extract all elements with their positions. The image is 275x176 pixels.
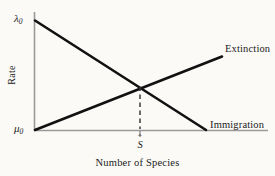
mu-subscript: 0 xyxy=(20,127,24,136)
extinction-line xyxy=(35,57,222,131)
x-axis-tick-label-s-hat: S xyxy=(128,140,152,151)
s-hat-symbol: S xyxy=(137,140,142,151)
immigration-series-label: Immigration xyxy=(210,120,264,131)
island-biogeography-chart: λ0 μ0 Extinction Immigration Rate Number… xyxy=(0,0,275,176)
extinction-series-label: Extinction xyxy=(225,44,270,55)
x-axis-title: Number of Species xyxy=(0,158,275,169)
immigration-line xyxy=(35,21,206,131)
y-axis-max-label: λ0 xyxy=(14,13,23,26)
y-axis-title: Rate xyxy=(7,55,17,95)
y-axis-min-label: μ0 xyxy=(14,123,23,136)
lambda-subscript: 0 xyxy=(19,17,23,26)
